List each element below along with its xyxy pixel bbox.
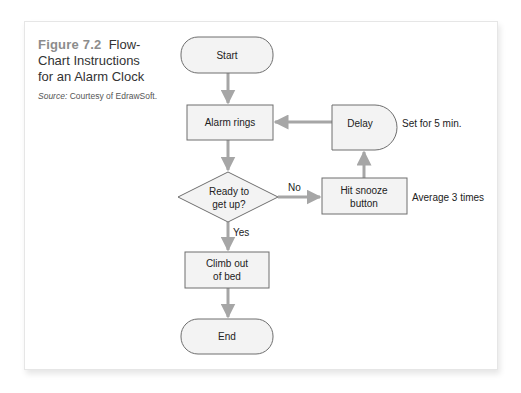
node-alarm-rings-label: Alarm rings — [205, 117, 256, 128]
node-climb-out: Climb out of bed — [185, 252, 269, 288]
node-alarm-rings: Alarm rings — [187, 105, 273, 140]
node-delay-label: Delay — [347, 118, 373, 129]
node-decision: Ready to get up? — [178, 172, 278, 222]
node-climb-out-label-line2: of bed — [213, 271, 241, 282]
delay-note: Set for 5 min. — [402, 118, 461, 129]
node-decision-label-line2: get up? — [212, 199, 246, 210]
node-start-label: Start — [216, 50, 237, 61]
node-decision-label-line1: Ready to — [209, 186, 249, 197]
node-hit-snooze-label-line2: button — [350, 198, 378, 209]
snooze-note: Average 3 times — [412, 192, 484, 203]
node-climb-out-label-line1: Climb out — [206, 258, 248, 269]
node-end: End — [181, 319, 273, 354]
edge-label-no: No — [288, 182, 301, 193]
node-hit-snooze-label-line1: Hit snooze — [340, 185, 388, 196]
node-delay: Delay — [332, 105, 397, 150]
node-end-label: End — [218, 331, 236, 342]
node-hit-snooze: Hit snooze button — [322, 178, 407, 214]
edge-label-yes: Yes — [233, 227, 249, 238]
node-start: Start — [181, 37, 273, 73]
flowchart: Start Alarm rings Delay Set for 5 min. R… — [0, 0, 521, 393]
